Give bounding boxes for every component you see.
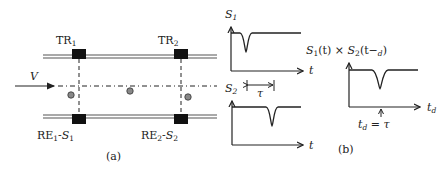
- plot-s2-xlabel: t: [309, 139, 314, 152]
- plot-s2: S2 t: [225, 82, 314, 152]
- panel-a: V TR1 TR2 RE1-S1 RE2-S2 (a): [15, 34, 217, 163]
- top-rail: [43, 55, 217, 58]
- plot-s2-ylabel: S2: [225, 82, 238, 96]
- panel-b: S1 t τ S2 t S1(t) × S2(t−d): [225, 8, 436, 156]
- correlation-title: S1(t) × S2(t−d): [306, 44, 387, 58]
- plot-s1-xlabel: t: [309, 64, 314, 77]
- peak-annotation: td = τ: [358, 118, 390, 132]
- signal-s1-trace: [231, 33, 301, 52]
- correlation-trace: [349, 70, 418, 89]
- velocity-label: V: [30, 70, 39, 83]
- signal-s2-trace: [232, 107, 301, 126]
- receiver-1-label: RE1-S1: [37, 129, 74, 143]
- transmitter-1-block: [72, 49, 86, 59]
- receiver-1-block: [72, 114, 86, 124]
- delay-label: τ: [257, 87, 264, 100]
- transmitter-1-label: TR1: [56, 34, 76, 48]
- panel-a-caption: (a): [106, 150, 121, 163]
- particle: [185, 94, 191, 100]
- transmitter-2-label: TR2: [158, 34, 179, 48]
- panel-b-caption: (b): [338, 143, 354, 156]
- plot-s1-ylabel: S1: [225, 8, 237, 22]
- diagram-canvas: V TR1 TR2 RE1-S1 RE2-S2 (a) S1 t τ: [0, 0, 446, 171]
- receiver-2-label: RE2-S2: [141, 129, 178, 143]
- plot-s1: S1 t: [225, 8, 314, 77]
- correlation-xlabel: td: [427, 101, 436, 115]
- receiver-2-block: [174, 114, 188, 124]
- delay-marker: τ: [247, 80, 274, 100]
- transmitter-2-block: [174, 49, 188, 59]
- bottom-rail: [43, 115, 217, 118]
- particle: [127, 88, 133, 94]
- plot-correlation: td td = τ: [349, 63, 436, 132]
- particle: [68, 92, 74, 98]
